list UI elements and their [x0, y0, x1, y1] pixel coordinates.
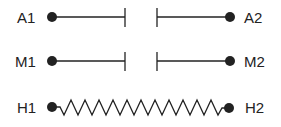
terminal-dot-a2 — [225, 12, 235, 22]
contact-a — [52, 8, 230, 27]
terminal-dot-m1 — [47, 56, 57, 66]
terminal-dot-a1 — [47, 12, 57, 22]
resistor-h — [52, 100, 229, 115]
contact-m — [52, 52, 230, 71]
terminal-diagram — [0, 0, 281, 127]
terminal-dot-h1 — [47, 102, 57, 112]
terminal-dot-m2 — [225, 56, 235, 66]
terminal-dot-h2 — [224, 103, 234, 113]
